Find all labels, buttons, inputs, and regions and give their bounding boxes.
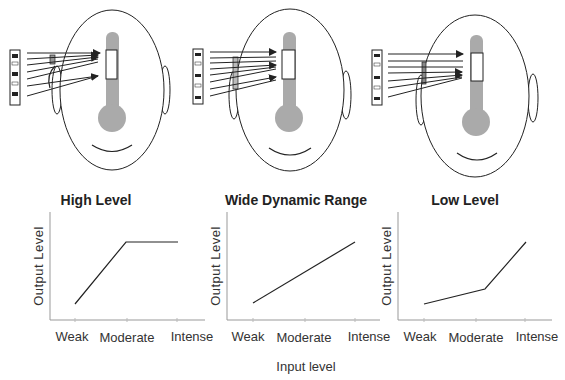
x-tick-label: Weak [404, 329, 437, 344]
chart-title: Low Level [431, 192, 499, 208]
chart-wide-dynamic-range: Wide Dynamic Range Output Level Weak Mod… [208, 192, 390, 345]
sound-level-meter-icon [372, 50, 382, 105]
chart-title: Wide Dynamic Range [225, 192, 367, 208]
right-ear [528, 74, 538, 122]
response-curve [253, 242, 355, 303]
y-axis-label: Output Level [379, 226, 394, 306]
x-tick-label: Moderate [100, 330, 155, 345]
chart-high-level: High Level Output Level Weak Moderate In… [31, 192, 213, 345]
response-curve [75, 242, 178, 304]
y-axis-label: Output Level [31, 226, 46, 306]
sound-level-meter-icon [10, 50, 20, 105]
x-tick-label: Moderate [449, 330, 504, 345]
head-diagram-high-level [10, 10, 170, 170]
x-tick-label: Moderate [277, 330, 332, 345]
shared-x-axis-label: Input level [276, 359, 335, 374]
head-diagram-low-level [372, 15, 538, 177]
x-tick-label: Intense [348, 329, 391, 344]
x-tick-label: Intense [516, 329, 559, 344]
chart-title: High Level [61, 192, 132, 208]
x-tick-label: Weak [56, 329, 89, 344]
y-axis-label: Output Level [208, 226, 223, 306]
response-curve [424, 242, 526, 304]
chart-low-level: Low Level Output Level Weak Moderate Int… [379, 192, 558, 345]
figure-canvas: High Level Output Level Weak Moderate In… [0, 0, 565, 380]
sound-level-meter-icon [193, 49, 203, 104]
x-tick-label: Intense [171, 329, 214, 344]
head-diagram-wide-dynamic-range [193, 9, 351, 171]
x-tick-label: Weak [232, 329, 265, 344]
